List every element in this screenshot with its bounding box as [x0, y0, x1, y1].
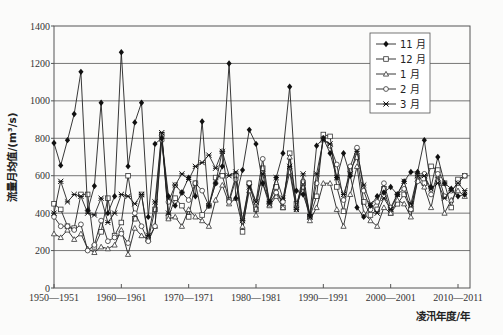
line-chart: 0200400600800100012001400 1950—19511960—…: [0, 0, 503, 335]
x-axis-ticks: 1950—19511960—19611970—19711980—19811990…: [29, 284, 483, 303]
y-tick-label: 400: [35, 208, 50, 219]
x-tick-label: 1950—1951: [29, 292, 79, 303]
legend-item: 2 月: [400, 84, 420, 95]
y-axis-label: 流量月均值/(m³/s): [6, 112, 18, 201]
legend-item: 1 月: [400, 69, 420, 80]
x-tick-label: 1980—1981: [231, 292, 281, 303]
y-tick-label: 1000: [30, 95, 50, 106]
y-axis-ticks: 0200400600800100012001400: [30, 21, 54, 294]
y-tick-label: 600: [35, 170, 50, 181]
y-tick-label: 800: [35, 133, 50, 144]
y-tick-label: 1200: [30, 58, 50, 69]
series-5: [51, 130, 467, 238]
legend-item: 3 月: [400, 99, 420, 110]
legend: 11 月12 月1 月2 月3 月: [370, 33, 430, 113]
x-tick-label: 2010—2011: [433, 292, 483, 303]
y-tick-label: 1400: [30, 21, 50, 32]
x-tick-label: 1970—1971: [164, 292, 214, 303]
x-tick-label: 1960—1961: [96, 292, 146, 303]
legend-item: 11 月: [400, 39, 426, 50]
legend-item: 12 月: [400, 54, 426, 65]
y-tick-label: 200: [35, 245, 50, 256]
x-tick-label: 2000—2001: [366, 292, 416, 303]
x-axis-label: 凌汛年度/年: [416, 310, 471, 322]
x-tick-label: 1990—1991: [298, 292, 348, 303]
